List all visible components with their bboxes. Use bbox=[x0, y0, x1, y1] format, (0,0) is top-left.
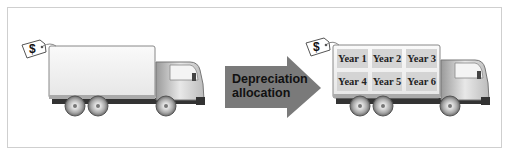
year-allocation-grid: Year 1 Year 2 Year 3 Year 4 Year 5 Year … bbox=[337, 49, 437, 91]
arrow-label: Depreciation allocation bbox=[232, 72, 312, 100]
dollar-symbol-right: $ bbox=[313, 40, 320, 54]
year-cell: Year 6 bbox=[406, 72, 437, 91]
left-truck bbox=[22, 40, 205, 116]
year-cell: Year 1 bbox=[337, 49, 368, 68]
year-cell: Year 2 bbox=[372, 49, 403, 68]
dollar-symbol-left: $ bbox=[29, 42, 36, 56]
year-cell: Year 5 bbox=[372, 72, 403, 91]
year-cell: Year 4 bbox=[337, 72, 368, 91]
arrow-label-line1: Depreciation bbox=[232, 72, 312, 86]
year-cell: Year 3 bbox=[406, 49, 437, 68]
arrow-label-line2: allocation bbox=[232, 86, 312, 100]
